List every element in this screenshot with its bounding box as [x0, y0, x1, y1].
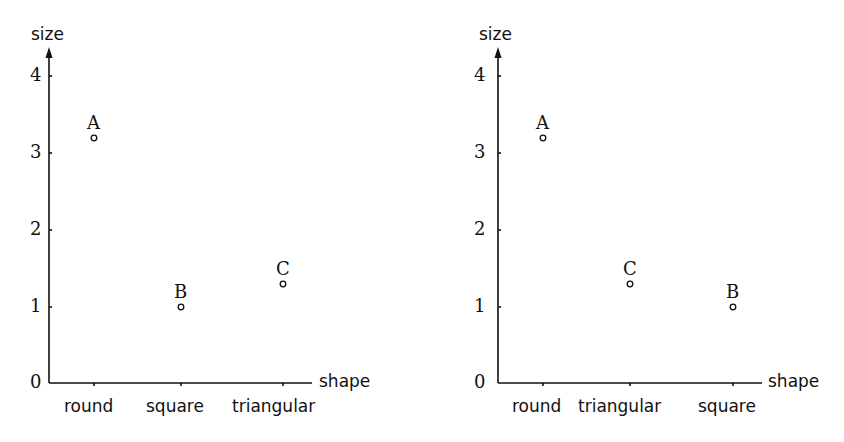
y-tick-label: 4	[474, 64, 485, 85]
point-A-marker	[91, 135, 97, 141]
x-category-label: round	[512, 396, 561, 416]
point-label-C: C	[276, 258, 290, 279]
x-axis-label: shape	[768, 371, 819, 391]
point-label-A: A	[87, 112, 100, 133]
y-axis-label: size	[479, 24, 512, 44]
point-label-B: B	[726, 281, 739, 302]
x-axis-label: shape	[319, 371, 370, 391]
y-tick-label: 0	[30, 371, 41, 392]
point-B-marker	[730, 304, 736, 310]
point-B-marker	[178, 304, 184, 310]
point-C-marker	[280, 281, 286, 287]
left-chart-axes	[49, 56, 312, 386]
y-tick-label: 3	[30, 141, 41, 162]
point-label-A: A	[536, 112, 549, 133]
y-tick-label: 4	[30, 64, 41, 85]
x-category-label: triangular	[232, 396, 315, 416]
y-tick-label: 0	[474, 371, 485, 392]
y-tick-label: 3	[474, 141, 485, 162]
x-category-label: square	[698, 396, 756, 416]
y-tick-label: 2	[30, 218, 41, 239]
point-C-marker	[627, 281, 633, 287]
y-tick-label: 1	[30, 295, 41, 316]
left-points	[91, 135, 286, 310]
point-A-marker	[540, 135, 546, 141]
y-axis-label: size	[31, 24, 64, 44]
right-y-axis-arrow-icon	[495, 47, 502, 58]
y-tick-label: 2	[474, 218, 485, 239]
left-y-axis-arrow-icon	[46, 47, 53, 58]
x-category-label: triangular	[578, 396, 661, 416]
charts-canvas	[0, 0, 844, 442]
right-chart-axes	[498, 56, 762, 386]
x-category-label: round	[64, 396, 113, 416]
point-label-C: C	[623, 258, 637, 279]
y-tick-label: 1	[474, 295, 485, 316]
right-points	[540, 135, 736, 310]
x-category-label: square	[146, 396, 204, 416]
point-label-B: B	[174, 281, 187, 302]
